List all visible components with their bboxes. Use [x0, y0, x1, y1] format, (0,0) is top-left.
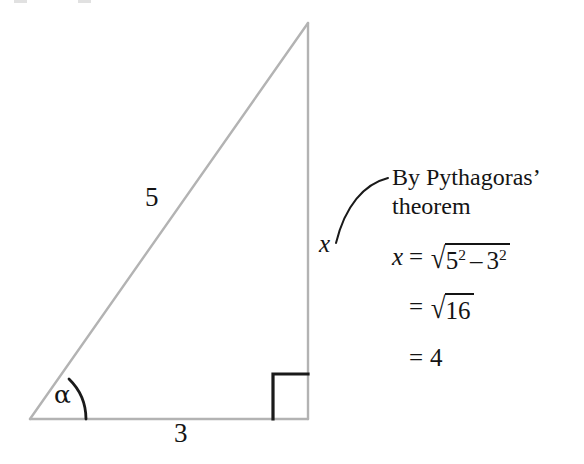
working-step-3: = 4: [409, 344, 443, 372]
step2-radical: √ 16: [430, 293, 473, 325]
hypotenuse-label: 5: [145, 184, 159, 211]
figure-canvas: 5 3 x α By Pythagoras’ theorem x = √ 52–…: [0, 0, 584, 464]
step3-equals: =: [409, 344, 430, 372]
step1-exponent-b: 2: [499, 246, 507, 263]
step1-radical: √ 52–32: [430, 243, 509, 275]
angle-arc-alpha: [69, 379, 86, 419]
annotation-line-1: By Pythagoras’: [392, 163, 541, 192]
leader-line: [336, 178, 388, 243]
base-label: 3: [174, 420, 188, 447]
step1-base-b: 3: [486, 247, 499, 274]
step1-exponent-a: 2: [458, 246, 466, 263]
step1-variable: x: [392, 243, 409, 271]
step1-equals: =: [409, 243, 430, 271]
radical-sign-icon: √: [431, 244, 446, 276]
annotation-line-2: theorem: [392, 192, 471, 221]
vertical-side-label: x: [319, 231, 330, 256]
step2-radicand: 16: [445, 293, 474, 325]
triangle-figure: [0, 0, 584, 464]
right-angle-marker: [273, 374, 308, 419]
triangle-hypotenuse: [30, 23, 308, 419]
working-step-2: = √ 16: [409, 293, 474, 325]
angle-alpha-label: α: [54, 382, 71, 407]
radical-sign-icon: √: [431, 294, 446, 326]
step3-value: 4: [430, 344, 443, 372]
working-step-1: x = √ 52–32: [392, 243, 510, 275]
step1-base-a: 5: [446, 247, 459, 274]
step2-equals: =: [409, 293, 430, 321]
step1-radicand: 52–32: [445, 243, 510, 275]
step1-operator: –: [466, 247, 487, 274]
